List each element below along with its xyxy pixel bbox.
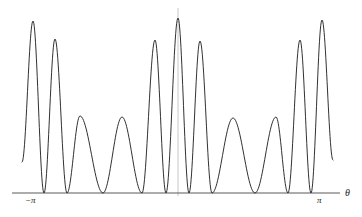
plot-canvas [0, 0, 362, 217]
x-tick-label-pos-pi: π [317, 196, 322, 205]
intensity-curve [22, 18, 333, 193]
interference-pattern-figure: −π π θ [0, 0, 362, 217]
theta-axis-label: θ [345, 188, 350, 198]
x-tick-label-neg-pi: −π [25, 196, 36, 205]
